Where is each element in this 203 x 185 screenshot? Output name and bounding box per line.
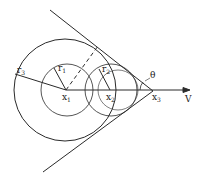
label-x3: x3 — [152, 92, 161, 103]
label-x2: x2 — [106, 92, 115, 103]
label-r2: r2 — [102, 64, 110, 75]
label-r1: r1 — [58, 63, 66, 74]
dashed-line — [66, 46, 98, 90]
label-theta: θ — [150, 70, 155, 80]
geometry-diagram: r3 r1 r2 x1 x2 x3 θ V — [0, 0, 203, 185]
arrow-head — [183, 88, 190, 93]
lower-tangent-line — [43, 91, 153, 172]
label-r3: r3 — [17, 65, 25, 76]
label-v: V — [184, 94, 192, 104]
label-x1: x1 — [62, 92, 71, 103]
theta-arc — [140, 82, 143, 90]
